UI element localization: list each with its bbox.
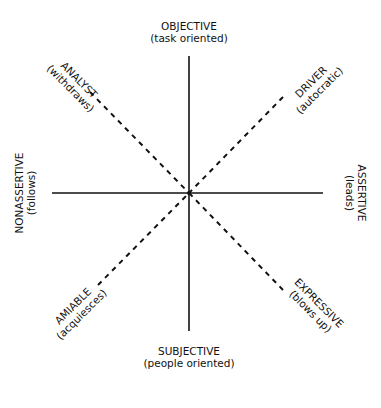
diagonal-expressive-line (189, 193, 283, 290)
axis-subtitle: (task oriented) (139, 32, 239, 44)
axis-label-assertive: ASSERTIVE (leads) (344, 138, 368, 248)
axis-label-objective: OBJECTIVE (task oriented) (139, 20, 239, 44)
axis-subtitle: (leads) (344, 138, 356, 248)
axis-title: SUBJECTIVE (129, 345, 249, 357)
axis-title: OBJECTIVE (139, 20, 239, 32)
axis-subtitle: (follows) (25, 138, 37, 248)
social-style-diagram: OBJECTIVE (task oriented) SUBJECTIVE (pe… (0, 0, 381, 408)
axis-label-nonassertive: NONASSERTIVE (follows) (13, 138, 37, 248)
center-point (187, 191, 191, 195)
axis-label-subjective: SUBJECTIVE (people oriented) (129, 345, 249, 369)
axis-subtitle: (people oriented) (129, 357, 249, 369)
axis-title: ASSERTIVE (356, 138, 368, 248)
diagonal-amiable-line (98, 193, 189, 285)
diagonal-driver-line (189, 97, 283, 193)
axis-title: NONASSERTIVE (13, 138, 25, 248)
